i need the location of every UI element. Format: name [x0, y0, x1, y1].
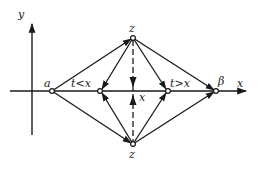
x-axis-label: x [237, 78, 243, 89]
edge-ztop-tless [102, 38, 133, 89]
label-a: a [44, 78, 51, 89]
y-axis-label: y [18, 9, 24, 20]
node-t-less [98, 89, 103, 94]
label-center-x: x [139, 92, 145, 103]
label-z-top: z [129, 23, 135, 34]
node-z-top [131, 36, 136, 41]
edge-zbottom-tgreater [133, 93, 166, 144]
node-z-bottom [131, 142, 136, 147]
label-t-less: t<x [71, 78, 91, 89]
contour-diagram: y x a t<x x t>x β z z [0, 0, 265, 169]
label-t-greater: t>x [170, 78, 190, 89]
label-z-bottom: z [129, 149, 135, 160]
node-beta [214, 89, 219, 94]
edge-a-ztop [52, 39, 131, 91]
label-beta: β [218, 76, 224, 87]
edge-a-zbottom [52, 91, 131, 143]
edge-ztop-tgreater [133, 38, 166, 89]
edge-zbottom-tless [102, 93, 133, 144]
